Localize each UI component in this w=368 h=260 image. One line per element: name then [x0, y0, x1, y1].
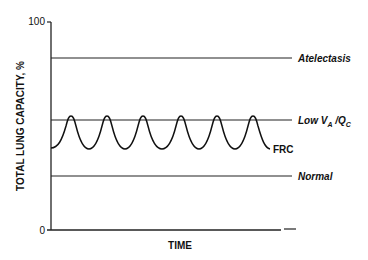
frc-label: FRC — [273, 144, 294, 155]
atelectasis-label: Atelectasis — [297, 53, 351, 64]
x-axis-label: TIME — [168, 240, 192, 251]
frc-curve — [51, 116, 270, 149]
low-vq-label: Low VA /QC — [298, 115, 352, 128]
y-axis-label: TOTAL LUNG CAPACITY, % — [15, 61, 26, 191]
tick-label-0: 0 — [39, 225, 45, 236]
normal-label: Normal — [298, 171, 333, 182]
lung-capacity-diagram: 100 0 TOTAL LUNG CAPACITY, % TIME Atelec… — [0, 0, 368, 260]
tick-label-100: 100 — [28, 16, 45, 27]
